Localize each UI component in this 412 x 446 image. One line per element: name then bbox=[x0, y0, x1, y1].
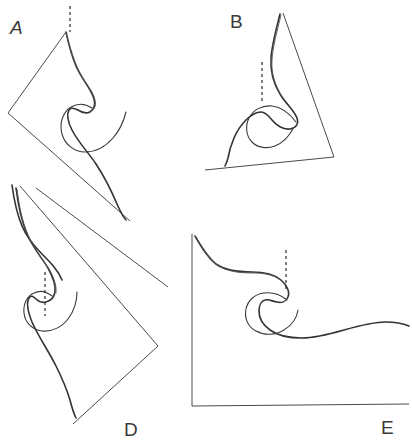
panel-C-axis bbox=[36, 188, 168, 287]
panel-D bbox=[16, 186, 158, 424]
panel-B-loop bbox=[247, 106, 296, 148]
panel-label-b: B bbox=[230, 12, 243, 31]
panel-B-axis bbox=[205, 13, 334, 170]
panel-A bbox=[8, 6, 130, 221]
figure-canvas bbox=[0, 0, 412, 446]
panel-E-loop bbox=[245, 293, 298, 334]
panel-label-e: E bbox=[381, 418, 394, 437]
panel-B bbox=[205, 13, 334, 170]
panel-E-curve bbox=[195, 236, 409, 338]
panel-E-curve-overlay bbox=[196, 237, 282, 281]
panel-E-axis bbox=[192, 234, 409, 406]
figure-container: A B D E bbox=[0, 0, 412, 446]
panel-B-curve bbox=[225, 14, 298, 166]
panel-C-curve bbox=[12, 185, 62, 280]
panel-label-d: D bbox=[124, 420, 138, 439]
panel-A-curve-overlay bbox=[66, 33, 96, 112]
panel-E bbox=[192, 234, 409, 406]
panel-D-loop bbox=[24, 292, 77, 332]
panel-D-axis bbox=[20, 186, 158, 424]
panel-label-a: A bbox=[10, 18, 23, 37]
panel-C bbox=[12, 185, 168, 287]
panel-A-curve bbox=[66, 32, 126, 220]
